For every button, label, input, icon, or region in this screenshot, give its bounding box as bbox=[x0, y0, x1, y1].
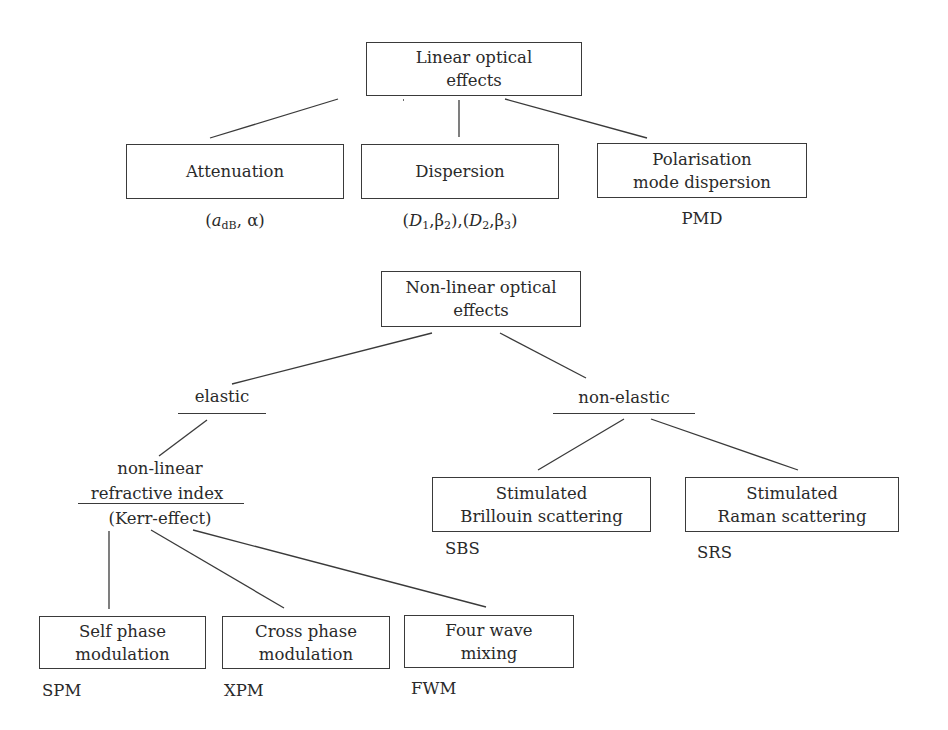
kerr-underline bbox=[78, 503, 244, 504]
link-nonlinear-nonelastic bbox=[500, 333, 586, 378]
srs-line2: Raman scattering bbox=[718, 505, 867, 528]
link-kerr-fwm bbox=[193, 530, 486, 607]
fwm-line1: Four wave bbox=[445, 619, 532, 642]
link-kerr-xpm bbox=[151, 530, 284, 608]
kerr-line2: refractive index bbox=[72, 482, 242, 505]
attenuation-label: Attenuation bbox=[186, 160, 284, 183]
elastic-underline bbox=[178, 413, 266, 414]
link-nonelastic-srs bbox=[651, 419, 798, 470]
link-elastic-kerr bbox=[159, 420, 207, 456]
nonlinear-optical-effects-box: Non-linear optical effects bbox=[381, 271, 581, 327]
link-nonelastic-sbs bbox=[538, 419, 624, 470]
sbs-line2: Brillouin scattering bbox=[460, 505, 622, 528]
nonlinear-root-line1: Non-linear optical bbox=[405, 276, 556, 299]
pmd-line2: mode dispersion bbox=[633, 171, 771, 194]
linear-root-line2: effects bbox=[446, 69, 502, 92]
attenuation-parameters: (adB, α) bbox=[126, 209, 344, 232]
fwm-abbreviation: FWM bbox=[411, 677, 456, 700]
srs-box: Stimulated Raman scattering bbox=[685, 477, 899, 532]
linear-root-line1: Linear optical bbox=[416, 46, 532, 69]
dispersion-parameters: (D1,β2),(D2,β3) bbox=[349, 209, 571, 232]
fwm-line2: mixing bbox=[461, 642, 518, 665]
pmd-abbreviation: PMD bbox=[597, 207, 807, 230]
fwm-box: Four wave mixing bbox=[404, 615, 574, 668]
xpm-box: Cross phase modulation bbox=[222, 616, 390, 669]
srs-abbreviation: SRS bbox=[697, 541, 732, 564]
spm-line1: Self phase bbox=[79, 620, 166, 643]
elastic-label: elastic bbox=[178, 385, 266, 408]
link-nonlinear-elastic bbox=[232, 333, 432, 384]
spm-box: Self phase modulation bbox=[39, 616, 206, 669]
kerr-line3: (Kerr-effect) bbox=[80, 507, 240, 530]
pmd-line1: Polarisation bbox=[652, 148, 751, 171]
sbs-box: Stimulated Brillouin scattering bbox=[432, 477, 651, 532]
xpm-abbreviation: XPM bbox=[224, 679, 264, 702]
sbs-line1: Stimulated bbox=[496, 482, 588, 505]
xpm-line1: Cross phase bbox=[255, 620, 357, 643]
xpm-line2: modulation bbox=[259, 643, 353, 666]
nonlinear-root-line2: effects bbox=[453, 299, 509, 322]
spm-abbreviation: SPM bbox=[42, 679, 81, 702]
srs-line1: Stimulated bbox=[746, 482, 838, 505]
attenuation-box: Attenuation bbox=[126, 144, 344, 199]
polarisation-mode-dispersion-box: Polarisation mode dispersion bbox=[597, 143, 807, 198]
spm-line2: modulation bbox=[75, 643, 169, 666]
linear-optical-effects-box: Linear optical effects bbox=[366, 42, 582, 96]
link-linear-attenuation bbox=[210, 99, 338, 138]
dispersion-box: Dispersion bbox=[361, 144, 559, 199]
link-linear-pmd bbox=[505, 99, 647, 138]
non-elastic-underline bbox=[553, 413, 695, 414]
non-elastic-label: non-elastic bbox=[553, 386, 695, 409]
sbs-abbreviation: SBS bbox=[445, 537, 480, 560]
kerr-line1: non-linear bbox=[80, 457, 240, 480]
dispersion-label: Dispersion bbox=[415, 160, 505, 183]
